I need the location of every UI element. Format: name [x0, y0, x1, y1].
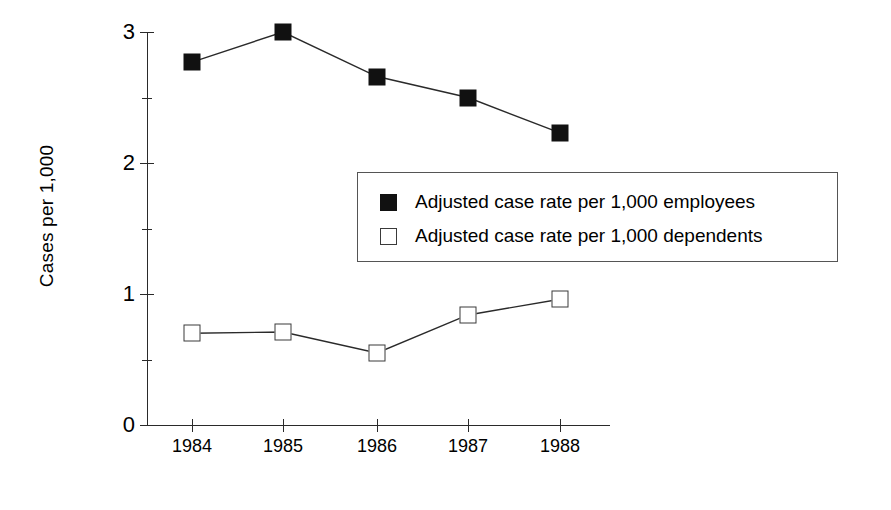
x-tick-label-1984: 1984 [172, 436, 212, 457]
data-point-1984 [184, 54, 201, 71]
legend-item-dependents: Adjusted case rate per 1,000 dependents [380, 219, 837, 253]
data-point-1985 [275, 323, 292, 340]
data-point-1987 [460, 89, 477, 106]
open-square-icon [380, 228, 397, 245]
x-tick-label-1988: 1988 [540, 436, 580, 457]
y-tick-0 [140, 425, 154, 426]
y-tick-label-2: 2 [123, 152, 135, 174]
data-point-1986 [369, 344, 386, 361]
x-tick-label-1985: 1985 [263, 436, 303, 457]
data-point-1984 [184, 325, 201, 342]
chart-legend: Adjusted case rate per 1,000 employees A… [357, 172, 838, 262]
x-tick-label-1987: 1987 [448, 436, 488, 457]
x-tick-label-1986: 1986 [357, 436, 397, 457]
legend-label-employees: Adjusted case rate per 1,000 employees [415, 191, 755, 213]
data-point-1988 [552, 124, 569, 141]
x-axis-line [147, 425, 610, 426]
y-tick-label-0: 0 [123, 414, 135, 436]
data-point-1987 [460, 306, 477, 323]
legend-item-employees: Adjusted case rate per 1,000 employees [380, 185, 837, 219]
legend-label-dependents: Adjusted case rate per 1,000 dependents [415, 225, 763, 247]
filled-square-icon [380, 194, 397, 211]
y-tick-label-1: 1 [123, 283, 135, 305]
data-point-1986 [369, 68, 386, 85]
data-point-1988 [552, 291, 569, 308]
chart-canvas: Cases per 1,000 3 2 1 0 1984 1985 1986 1… [0, 0, 891, 510]
y-axis-title: Cases per 1,000 [36, 106, 58, 326]
y-tick-label-3: 3 [123, 21, 135, 43]
data-point-1985 [275, 24, 292, 41]
